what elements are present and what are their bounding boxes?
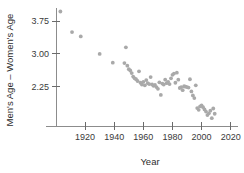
data-point (130, 71, 134, 75)
data-point (175, 71, 179, 75)
data-point (168, 82, 172, 86)
data-point (188, 77, 192, 81)
x-tick-label: 1980 (162, 132, 182, 142)
scatter-chart: 2.253.003.75 192019401960198020002020 Ye… (0, 0, 244, 173)
x-tick-label: 2000 (192, 132, 212, 142)
y-axis-title: Men's Age – Women's Age (4, 14, 15, 127)
x-tick-label: 1960 (133, 132, 153, 142)
x-axis: 192019401960198020002020 (46, 122, 241, 142)
data-point (169, 76, 173, 80)
data-point (192, 96, 196, 100)
data-point (124, 45, 128, 49)
data-point (98, 52, 102, 56)
data-point (149, 75, 153, 79)
data-point (79, 35, 83, 39)
x-tick-label: 1920 (75, 132, 95, 142)
y-axis: 2.253.003.75 (31, 8, 60, 126)
data-point (58, 10, 62, 14)
data-point (125, 64, 129, 68)
data-point (194, 83, 198, 87)
data-point (187, 86, 191, 90)
x-axis-title: Year (140, 156, 159, 167)
y-tick-label: 3.75 (31, 16, 49, 26)
data-point (123, 61, 127, 65)
data-point (181, 88, 185, 92)
data-point (70, 30, 74, 34)
data-point (210, 116, 214, 120)
y-tick-label: 2.25 (31, 82, 49, 92)
data-point (173, 81, 177, 85)
data-point (197, 108, 201, 112)
data-points-layer (58, 10, 216, 120)
data-point (190, 90, 194, 94)
y-tick-label: 3.00 (31, 49, 49, 59)
data-point (211, 107, 215, 111)
data-point (159, 93, 163, 97)
data-point (111, 61, 115, 65)
x-tick-label: 1940 (104, 132, 124, 142)
data-point (176, 78, 180, 82)
chart-canvas: 2.253.003.75 192019401960198020002020 Ye… (0, 0, 244, 173)
data-point (213, 112, 217, 116)
data-point (137, 69, 141, 73)
data-point (156, 87, 160, 91)
x-tick-label: 2020 (221, 132, 241, 142)
